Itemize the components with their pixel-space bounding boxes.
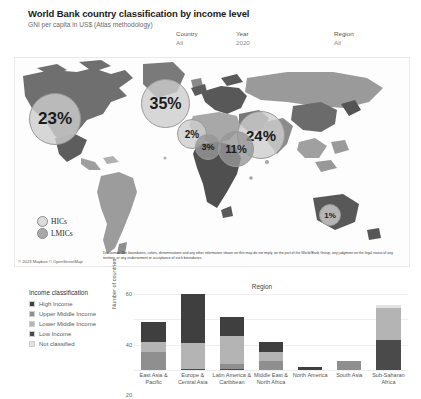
chart-bar-segment[interactable] — [376, 340, 400, 370]
chart-bar[interactable] — [259, 342, 283, 370]
chart-x-tick-label: Middle East & North Africa — [251, 372, 290, 386]
map-bubble-value: 1% — [324, 211, 336, 220]
filter-country-label: Country — [176, 29, 198, 38]
income-legend-label: Not classified — [39, 341, 75, 347]
chart-bar-segment[interactable] — [181, 369, 205, 370]
chart-bar[interactable] — [141, 322, 165, 370]
income-legend-label: Low Income — [39, 331, 71, 337]
chart-bar-segment[interactable] — [220, 369, 244, 370]
chart-y-tick-label: 60 — [126, 291, 132, 297]
chart-bar-segment[interactable] — [259, 352, 283, 361]
chart-bar-segment[interactable] — [141, 342, 165, 352]
color-swatch-high-income-icon — [29, 301, 35, 307]
chart-bar-segment[interactable] — [220, 317, 244, 336]
chart-gridline: 60 — [134, 294, 408, 295]
filter-year-value[interactable]: 2020 — [236, 38, 250, 47]
chart-gridline: 40 — [134, 319, 408, 320]
chart-gridline: 0 — [134, 370, 408, 371]
chart-y-axis-label: Number of countries — [111, 259, 117, 309]
map-bubble-value: 11% — [225, 143, 246, 155]
chart-x-tick-label: Europe & Central Asia — [173, 372, 212, 386]
circle-swatch-hics-icon — [37, 216, 48, 227]
map-bubble-south-asia[interactable]: 11% — [218, 131, 254, 167]
chart-bar-segment[interactable] — [298, 367, 322, 370]
chart-x-tick-label: East Asia & Pacific — [134, 372, 173, 386]
income-legend-item-not-classified[interactable]: Not classified — [29, 339, 96, 349]
income-legend-item-lower-middle-income[interactable]: Lower Middle Income — [29, 319, 96, 329]
map-legend-item-lmics[interactable]: LMICs — [37, 227, 73, 239]
income-legend-item-upper-middle-income[interactable]: Upper Middle Income — [29, 309, 96, 319]
filter-region-label: Region — [334, 29, 354, 38]
income-legend-label: Lower Middle Income — [39, 321, 96, 327]
income-legend-item-low-income[interactable]: Low Income — [29, 329, 96, 339]
chart-bar[interactable] — [181, 294, 205, 370]
map-bubble-value: 23% — [38, 109, 72, 129]
filter-region-value[interactable]: All — [334, 38, 354, 47]
chart-bar-segment[interactable] — [220, 336, 244, 364]
chart-y-tick-label: 20 — [126, 392, 132, 398]
chart-bar[interactable] — [337, 361, 361, 370]
chart-bar-segment[interactable] — [259, 361, 283, 370]
chart-plot-area: 0204060East Asia & PacificEurope & Centr… — [134, 294, 408, 370]
chart-bar-segment[interactable] — [181, 343, 205, 368]
chart-bar-segment[interactable] — [376, 308, 400, 340]
filter-year[interactable]: Year 2020 — [236, 29, 250, 47]
chart-bar-segment[interactable] — [141, 352, 165, 370]
region-bar-chart[interactable]: Region Number of countries 0204060East A… — [112, 283, 412, 395]
map-attribution[interactable]: © 2023 Mapbox © OpenStreetMap — [18, 259, 83, 264]
world-map-landmasses — [15, 58, 409, 266]
chart-title: Region — [112, 283, 412, 290]
map-legend-label: LMICs — [51, 229, 73, 238]
map-bubble-north-america[interactable]: 23% — [29, 93, 81, 145]
map-bubble-value: 3% — [201, 142, 214, 152]
income-legend-item-high-income[interactable]: High Income — [29, 299, 96, 309]
map-disclaimer: Disclaimer: The boundaries, colors, deno… — [103, 251, 399, 261]
filter-country-value[interactable]: All — [176, 38, 198, 47]
filter-region[interactable]: Region All — [334, 29, 354, 47]
chart-bar-segment[interactable] — [141, 322, 165, 342]
filter-country[interactable]: Country All — [176, 29, 198, 47]
income-legend-label: High Income — [39, 301, 73, 307]
income-legend-title: Income classification — [29, 289, 96, 296]
chart-x-tick-label: North America — [291, 372, 330, 379]
chart-bar[interactable] — [298, 367, 322, 370]
chart-x-tick-label: Sub-Saharan Africa — [369, 372, 408, 386]
circle-swatch-lmics-icon — [37, 228, 48, 239]
map-legend-label: HICs — [51, 217, 67, 226]
page-subtitle: GNI per capita in US$ (Atlas methodology… — [28, 21, 153, 28]
color-swatch-lower-middle-income-icon — [29, 321, 35, 327]
chart-bar-segment[interactable] — [259, 342, 283, 352]
map-bubble-oceania[interactable]: 1% — [319, 204, 341, 226]
map-bubble-value: 35% — [149, 95, 181, 113]
chart-bar-segment[interactable] — [337, 361, 361, 370]
choropleth-map[interactable]: 23% 35% 2% 3% 24% 11% 1% HICs LMICs © 20… — [14, 57, 410, 267]
income-legend-label: Upper Middle Income — [39, 311, 96, 317]
chart-x-tick-label: Latin America & Caribbean — [212, 372, 251, 386]
color-swatch-not-classified-icon — [29, 341, 35, 347]
chart-bar[interactable] — [220, 317, 244, 370]
income-classification-legend: Income classification High Income Upper … — [29, 289, 96, 349]
chart-bar[interactable] — [376, 305, 400, 370]
map-legend: HICs LMICs — [37, 215, 73, 239]
color-swatch-upper-middle-income-icon — [29, 311, 35, 317]
color-swatch-low-income-icon — [29, 331, 35, 337]
chart-x-tick-label: South Asia — [330, 372, 369, 379]
filter-year-label: Year — [236, 29, 250, 38]
map-legend-item-hics[interactable]: HICs — [37, 215, 73, 227]
chart-y-tick-label: 40 — [126, 342, 132, 348]
page-title: World Bank country classification by inc… — [28, 8, 249, 19]
chart-bar-segment[interactable] — [181, 294, 205, 343]
